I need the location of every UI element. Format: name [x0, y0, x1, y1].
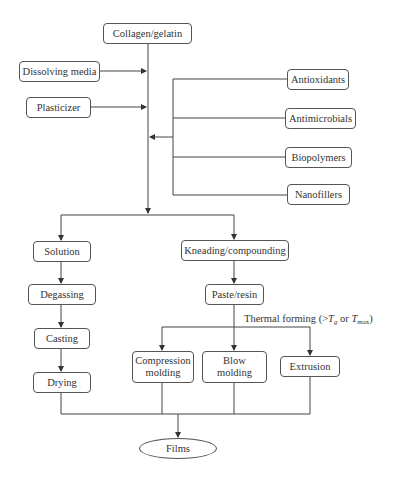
node-films: Films [139, 438, 217, 459]
node-antioxidants: Antioxidants [287, 69, 349, 90]
node-degassing: Degassing [28, 284, 96, 305]
node-drying: Drying [33, 372, 91, 393]
flowchart-canvas: Collagen/gelatin Dissolving media Plasti… [0, 0, 394, 479]
node-compression-molding: Compression molding [132, 351, 194, 383]
node-kneading-compounding: Kneading/compounding [181, 240, 289, 261]
node-solution: Solution [33, 241, 91, 262]
node-casting: Casting [34, 328, 90, 349]
node-dissolving-media: Dissolving media [19, 61, 100, 82]
node-paste-resin: Paste/resin [205, 284, 264, 305]
node-antimicrobials: Antimicrobials [285, 108, 356, 129]
node-biopolymers: Biopolymers [285, 147, 352, 168]
node-plasticizer: Plasticizer [26, 97, 91, 118]
node-collagen-gelatin: Collagen/gelatin [103, 23, 192, 44]
node-extrusion: Extrusion [280, 356, 340, 377]
node-nanofillers: Nanofillers [287, 184, 350, 205]
thermal-forming-label: Thermal forming (>Tg or Tmax) [244, 313, 373, 326]
node-blow-molding: Blow molding [202, 351, 267, 383]
